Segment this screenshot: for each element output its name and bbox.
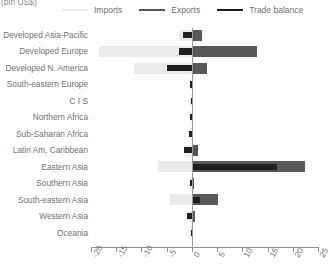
bar-row bbox=[91, 127, 318, 143]
category-label: Eastern Asia bbox=[0, 160, 88, 174]
category-label: Oceania bbox=[0, 226, 88, 240]
bar-row bbox=[91, 61, 318, 77]
legend-item-imports[interactable]: Imports bbox=[62, 5, 122, 15]
legend-swatch-trade-balance bbox=[217, 9, 243, 12]
legend-swatch-imports bbox=[62, 9, 88, 12]
x-tick-label: 25 bbox=[317, 246, 330, 259]
bar-trade-balance bbox=[167, 65, 192, 71]
bar-row bbox=[91, 94, 318, 110]
bar-imports bbox=[158, 161, 192, 172]
bar-row bbox=[91, 44, 318, 60]
bar-row bbox=[91, 110, 318, 126]
category-label: Latin Am, Caribbean bbox=[0, 143, 88, 157]
category-label: Sub-Saharan Africa bbox=[0, 127, 88, 141]
bar-exports bbox=[192, 46, 258, 57]
category-label: Developed N. America bbox=[0, 61, 88, 75]
legend-item-trade-balance[interactable]: Trade balance bbox=[217, 5, 303, 15]
bar-trade-balance bbox=[192, 197, 200, 203]
x-tick-label: 0 bbox=[191, 250, 202, 259]
category-label: Southern Asia bbox=[0, 176, 88, 190]
bar-row bbox=[91, 77, 318, 93]
category-label: Western Asia bbox=[0, 209, 88, 223]
legend-label-exports: Exports bbox=[171, 5, 200, 15]
x-tick-label: -15 bbox=[115, 244, 130, 259]
bar-row bbox=[91, 143, 318, 159]
bar-row bbox=[91, 28, 318, 44]
bar-exports bbox=[192, 63, 207, 74]
plot-area bbox=[91, 28, 318, 242]
unit-label: (bln US$) bbox=[1, 0, 37, 7]
zero-line bbox=[192, 28, 193, 250]
x-tick-label: -10 bbox=[140, 244, 155, 259]
category-label: Developed Asia-Pacific bbox=[0, 28, 88, 42]
legend-label-trade-balance: Trade balance bbox=[249, 5, 303, 15]
category-label: C I S bbox=[0, 94, 88, 108]
category-axis-labels: Developed Asia-PacificDeveloped EuropeDe… bbox=[0, 28, 88, 242]
chart-legend: Imports Exports Trade balance bbox=[62, 5, 303, 15]
bar-exports bbox=[192, 30, 203, 41]
bar-row bbox=[91, 160, 318, 176]
category-label: Developed Europe bbox=[0, 44, 88, 58]
category-label: Northern Africa bbox=[0, 110, 88, 124]
x-tick-label: 5 bbox=[216, 250, 227, 259]
category-label: South-eastern Europe bbox=[0, 77, 88, 91]
bar-trade-balance bbox=[183, 32, 192, 38]
bar-row bbox=[91, 176, 318, 192]
bar-row bbox=[91, 193, 318, 209]
legend-item-exports[interactable]: Exports bbox=[139, 5, 200, 15]
bar-trade-balance bbox=[184, 147, 192, 153]
x-tick-label: -5 bbox=[166, 248, 178, 259]
legend-swatch-exports bbox=[139, 9, 165, 12]
bar-rows bbox=[91, 28, 318, 242]
x-tick-label: -20 bbox=[90, 244, 105, 259]
category-label: South-eastern Asia bbox=[0, 193, 88, 207]
legend-label-imports: Imports bbox=[94, 5, 122, 15]
bar-trade-balance bbox=[179, 48, 192, 54]
bar-row bbox=[91, 209, 318, 225]
bar-trade-balance bbox=[192, 164, 277, 170]
bar-row bbox=[91, 226, 318, 242]
bar-imports bbox=[170, 194, 192, 205]
